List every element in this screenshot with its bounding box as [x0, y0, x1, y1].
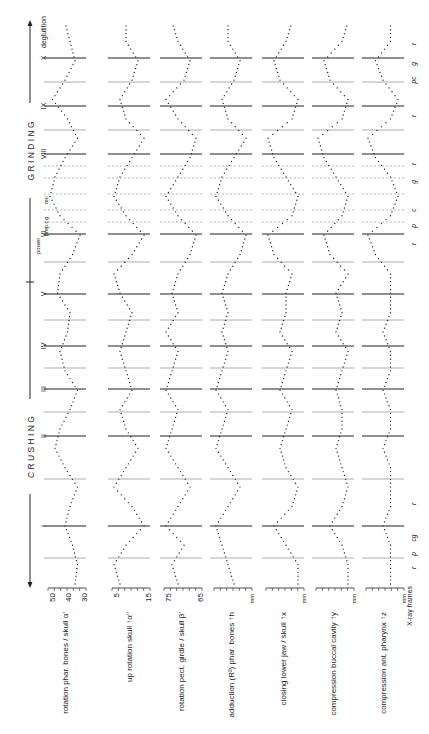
phase-marker: r: [410, 114, 417, 117]
series-label: closing lower jaw / skull ↑x: [279, 612, 288, 705]
phase-marker-top: prep.c: [43, 220, 49, 236]
phase-marker: r: [410, 242, 417, 245]
trace-row: [367, 25, 398, 585]
phase-marker: p: [410, 224, 418, 229]
phase-marker: g: [410, 180, 418, 184]
cycle-labels: IIIIIIIVVVIVIIIIXX: [40, 55, 47, 527]
power-label: power: [35, 238, 41, 254]
kinematic-chart: C R U S H I N G G R I N D I N G IIIIIIIV…: [0, 0, 429, 734]
figure-container: C R U S H I N G G R I N D I N G IIIIIIIV…: [0, 0, 429, 734]
phase-marker: r: [410, 566, 417, 569]
grinding-label: G R I N D I N G: [26, 121, 36, 180]
crushing-label: C R U S H I N G: [26, 416, 36, 478]
unit-label: mm: [351, 594, 357, 604]
phase-marker: c: [410, 208, 417, 212]
phase-marker: g: [410, 62, 418, 66]
y-tick-label: 15: [144, 592, 153, 601]
unit-label: mm: [301, 594, 307, 604]
phase-marker: r: [410, 162, 417, 165]
series-label: compression buccal cavity ↑y: [329, 612, 338, 716]
trace-row: [317, 25, 348, 585]
y-tick-label: 30: [80, 592, 89, 601]
phase-marker: r: [410, 42, 417, 45]
deglutition-label: deglutition: [40, 16, 48, 48]
unit-label: mm: [249, 594, 255, 604]
y-tick-label: 75: [164, 592, 173, 601]
trace-row: [165, 25, 196, 585]
y-tick-label: 50: [48, 592, 57, 601]
phase-marker: p: [410, 552, 418, 557]
series-label: rotation pect. girdle / skull β': [177, 612, 186, 712]
y-axes: 504030rotation phar. bones / skull α'515…: [48, 588, 407, 717]
trace-rows: [49, 25, 398, 585]
series-label: rotation phar. bones / skull α': [61, 612, 70, 714]
y-tick-label: 40: [64, 592, 73, 601]
phase-marker: cg: [410, 534, 418, 541]
trace-row: [49, 25, 80, 585]
y-tick-label: 5: [112, 592, 121, 597]
phase-marker: r: [410, 502, 417, 505]
frame-lines: [44, 58, 404, 558]
trace-row: [215, 25, 246, 585]
series-label: up rotation skull ↑α'': [125, 612, 134, 682]
phase-marker: pc: [410, 76, 418, 85]
bottom-markers: rpcgrrpcgrrpcgrprep.cgrec: [43, 42, 418, 569]
trace-row: [267, 25, 298, 585]
phase-marker-top: rec: [43, 196, 49, 204]
phase-bar: C R U S H I N G G R I N D I N G: [24, 20, 36, 588]
trace-row: [113, 25, 144, 585]
series-label: adduction (R²) phar. bones ↑h: [227, 612, 236, 717]
y-tick-label: 65: [196, 592, 205, 601]
phase-marker-top: g: [43, 217, 49, 220]
series-label: compression ant. pharynx ↑z: [379, 612, 388, 714]
xaxis-label: X-ray frames: [406, 585, 414, 626]
